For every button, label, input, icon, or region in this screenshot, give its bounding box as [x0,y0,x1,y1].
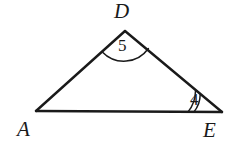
side-DE [125,31,222,112]
vertex-label-d: D [114,1,129,22]
geometry-figure: A D E 5 4 [0,0,235,149]
side-AD [36,31,125,111]
vertex-label-a: A [17,119,30,140]
vertex-label-e: E [203,120,216,141]
angle-label-5: 5 [118,37,127,54]
angle-label-4: 4 [190,91,199,108]
